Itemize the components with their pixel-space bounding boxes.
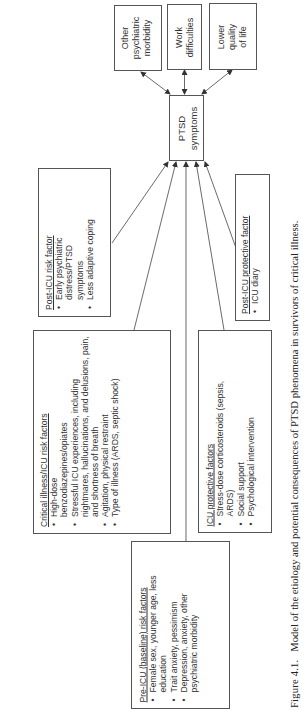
list-item: Type of illness (ARDS, septic shock): [110, 334, 120, 517]
outcome-line: difficulties: [184, 4, 195, 70]
arrow-critical-ptsd: [134, 162, 176, 330]
outcome-work-difficulties: Work difficulties: [167, 4, 202, 70]
post-icu-protective-factor-box: Post-ICU protective factor ICU diary: [235, 174, 270, 321]
critical-illness-list: High-dose benzodiazepines/opiates Stress…: [49, 334, 120, 527]
arrow-postprot-ptsd: [205, 162, 236, 248]
outcome-lower-quality-of-life: Lower quality of life: [209, 3, 257, 70]
list-item: Agitation, physical restraint: [100, 334, 110, 517]
outcome-line: of life: [237, 3, 248, 70]
outcome-line: Work: [173, 4, 184, 70]
figure-caption: Figure 4.1. Model of the etiology and po…: [289, 221, 300, 708]
list-item: ICU diary: [250, 178, 260, 304]
outcome-line: psychiatric: [131, 5, 142, 71]
outcome-line: morbidity: [142, 5, 153, 71]
list-item: Trait anxiety, pessimism: [168, 545, 178, 692]
arrow-ptsd-qol: [202, 70, 232, 94]
post-icu-risk-list: Early psychiatric distress/PTSD symptoms…: [54, 172, 95, 310]
arrow-ptsd-other: [141, 72, 170, 94]
arrow-icuprot-ptsd: [196, 162, 224, 330]
critical-illness-risk-factors-box: Critical illness/ICU risk factors High-d…: [33, 330, 171, 534]
list-item: Female sex, younger age, less education: [147, 552, 167, 692]
figure-label: Figure 4.1.: [289, 660, 300, 708]
list-item: Early psychiatric distress/PTSD symptoms: [54, 230, 85, 300]
icu-protective-list: Stress-dose corticosteroids (sepsis, ARD…: [214, 334, 255, 526]
arrow-postrisk-ptsd: [112, 162, 168, 243]
critical-illness-title: Critical illness/ICU risk factors: [39, 334, 49, 527]
ptsd-line: symptoms: [187, 95, 199, 161]
post-icu-protective-title: Post-ICU protective factor: [240, 178, 250, 314]
ptsd-line: PTSD: [175, 95, 187, 161]
pre-icu-baseline-risk-factors-box: Pre-ICU (baseline) risk factors Female s…: [131, 541, 230, 709]
outcome-line: Lower: [215, 3, 226, 70]
pre-icu-title: Pre-ICU (baseline) risk factors: [137, 545, 147, 702]
outcome-line: Other: [120, 5, 131, 71]
icu-protective-title: ICU protective factors: [204, 334, 214, 526]
figure-caption-text: Model of the etiology and potential cons…: [289, 221, 300, 652]
ptsd-model-diagram: Other psychiatric morbidity Work difficu…: [0, 0, 308, 710]
pre-icu-list: Female sex, younger age, less education …: [147, 545, 198, 702]
list-item: Depression, anxiety, other psychiatric m…: [178, 592, 198, 692]
icu-protective-factors-box: ICU protective factors Stress-dose corti…: [198, 330, 272, 533]
list-item: Less adaptive coping: [85, 172, 95, 300]
list-item: Social support: [235, 334, 245, 516]
post-icu-risk-title: Post-ICU risk factor: [44, 172, 54, 310]
list-item: High-dose benzodiazepines/opiates: [49, 397, 69, 517]
outcome-line: quality: [226, 3, 237, 70]
post-icu-protective-list: ICU diary: [250, 178, 260, 314]
list-item: Stress-dose corticosteroids (sepsis, ARD…: [214, 366, 234, 516]
ptsd-symptoms-node: PTSD symptoms: [169, 95, 204, 161]
outcome-other-psychiatric-morbidity: Other psychiatric morbidity: [114, 5, 162, 71]
list-item: Psychological intervention: [245, 334, 255, 516]
post-icu-risk-factor-box: Post-ICU risk factor Early psychiatric d…: [38, 168, 111, 317]
list-item: Stressful ICU experiences, including nig…: [70, 334, 101, 517]
